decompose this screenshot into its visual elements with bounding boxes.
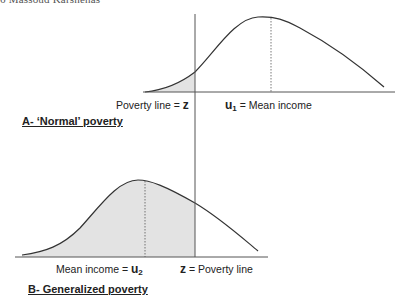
panel-b-mean-label: Mean income = u2 bbox=[56, 262, 143, 276]
panel-a-poverty-label: Poverty line = z bbox=[116, 98, 189, 112]
panel-a-title: A- ‘Normal’ poverty bbox=[22, 115, 123, 127]
poverty-symbol: z bbox=[183, 98, 189, 112]
panel-b-title: B- Generalized poverty bbox=[28, 283, 148, 295]
panel-b-poverty-label: z = Poverty line bbox=[180, 262, 253, 276]
panel-b-poverty-area bbox=[22, 180, 195, 257]
panel-a-distribution-curve bbox=[145, 17, 384, 92]
panel-a-mean-label: u1 = Mean income bbox=[225, 98, 312, 112]
panel-a-poverty-area bbox=[145, 72, 195, 92]
